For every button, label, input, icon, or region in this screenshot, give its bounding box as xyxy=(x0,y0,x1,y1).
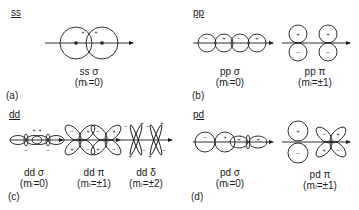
ss-sigma-label: ss σ xyxy=(80,66,99,77)
pp-pi-m-label: (mₗ=±1) xyxy=(298,77,332,88)
orbital-overlap-diagram: + + − + − + + − + − + + − − − + + − − + … xyxy=(0,0,359,210)
panel-c-title: dd xyxy=(9,109,20,120)
sign: + xyxy=(112,128,116,134)
dd-pi-m-label: (mₗ=±1) xyxy=(77,178,111,189)
sign: − xyxy=(46,147,50,153)
sign: − xyxy=(204,35,208,41)
sign: − xyxy=(203,134,207,140)
sign: − xyxy=(336,147,340,153)
sign: − xyxy=(296,150,300,156)
sign: − xyxy=(146,123,150,129)
dd-sigma-label: dd σ xyxy=(24,167,44,178)
dd-delta-m-label: (mₗ=±2) xyxy=(129,178,163,189)
sign: − xyxy=(70,128,74,134)
ss-sigma-m-label: (mₗ=0) xyxy=(75,77,103,88)
sign: + xyxy=(32,127,36,133)
sign: − xyxy=(296,49,300,55)
dd-pi-label: dd π xyxy=(84,167,105,178)
panel-d-label: (d) xyxy=(191,191,203,202)
sign: − xyxy=(112,146,116,152)
panel-a-label: (a) xyxy=(6,90,18,101)
sign: − xyxy=(237,35,241,41)
panel-a-title: ss xyxy=(11,7,21,18)
sign: + xyxy=(322,147,326,153)
sign: + xyxy=(296,128,300,134)
ss-sigma-diagram xyxy=(45,27,133,59)
sign: + xyxy=(296,31,300,37)
panel-b-title: pp xyxy=(193,7,204,18)
sign: − xyxy=(326,49,330,55)
pp-sigma-label: pp σ xyxy=(220,66,240,77)
sign: + xyxy=(96,146,100,152)
sign: − xyxy=(124,123,128,129)
sign: + xyxy=(148,153,152,159)
pp-pi-label: pp π xyxy=(305,66,326,77)
sign: + xyxy=(94,29,98,35)
dd-delta-label: dd δ xyxy=(136,167,155,178)
sign: + xyxy=(237,136,241,142)
sign: − xyxy=(24,147,28,153)
panel-d-title: pd xyxy=(193,109,204,120)
pp-pi-diagram xyxy=(282,25,350,61)
dd-sigma-diagram xyxy=(10,134,64,146)
pd-pi-label: pd π xyxy=(310,169,331,180)
sign: − xyxy=(86,146,90,152)
sign: + xyxy=(81,29,85,35)
sign: − xyxy=(142,147,146,153)
sign: + xyxy=(255,35,259,41)
sign: + xyxy=(336,131,340,137)
sign: − xyxy=(96,128,100,134)
sign: + xyxy=(70,146,74,152)
pd-pi-diagram xyxy=(282,121,350,163)
sign: + xyxy=(256,136,260,142)
sign: + xyxy=(326,31,330,37)
pd-pi-m-label: (mₗ=±1) xyxy=(303,180,337,191)
sign: + xyxy=(38,127,42,133)
dd-sigma-m-label: (mₗ=0) xyxy=(20,178,48,189)
panel-c-label: (c) xyxy=(8,191,20,202)
sign: + xyxy=(160,120,164,126)
sign: + xyxy=(223,134,227,140)
sign: − xyxy=(322,131,326,137)
pd-sigma-label: pd σ xyxy=(220,167,240,178)
pd-sigma-m-label: (mₗ=0) xyxy=(216,178,244,189)
sign: + xyxy=(86,128,90,134)
sign: + xyxy=(222,35,226,41)
pp-sigma-m-label: (mₗ=0) xyxy=(216,77,244,88)
sign: + xyxy=(128,153,132,159)
sign: − xyxy=(162,147,166,153)
panel-b-label: (b) xyxy=(192,90,204,101)
sign: + xyxy=(140,120,144,126)
